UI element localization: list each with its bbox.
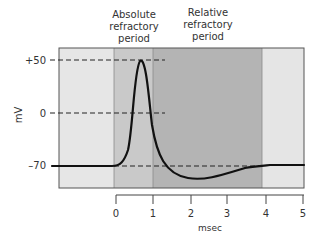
resting-region-right <box>262 48 304 188</box>
relative-refractory-label: period <box>192 31 224 42</box>
x-tick-label: 5 <box>300 208 306 219</box>
x-tick-label: 0 <box>113 208 119 219</box>
action-potential-chart: +50 0 –70 mV Absolute refractory period … <box>0 0 317 243</box>
x-tick-label: 3 <box>224 208 230 219</box>
x-tick-label: 1 <box>150 208 156 219</box>
absolute-refractory-region <box>114 48 153 188</box>
absolute-refractory-label: period <box>118 33 150 44</box>
y-tick-minus70: –70 <box>28 160 46 171</box>
y-axis-label: mV <box>13 107 24 124</box>
absolute-refractory-label: Absolute <box>112 9 156 20</box>
relative-refractory-label: Relative <box>188 7 228 18</box>
y-tick-plus50: +50 <box>25 55 46 66</box>
y-tick-zero: 0 <box>40 108 46 119</box>
x-tick-label: 4 <box>263 208 269 219</box>
x-axis-label: msec <box>198 223 222 233</box>
x-tick-label: 2 <box>188 208 194 219</box>
absolute-refractory-label: refractory <box>109 21 158 32</box>
relative-refractory-label: refractory <box>183 19 232 30</box>
